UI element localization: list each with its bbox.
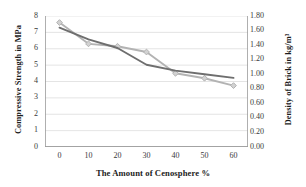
x-axis-tick-label: 50 (192, 151, 218, 160)
x-axis-tick-label: 10 (76, 151, 102, 160)
plot-area (45, 16, 248, 147)
series-layer (57, 20, 237, 89)
plot-svg (45, 16, 248, 147)
x-axis-tick-label: 30 (134, 151, 160, 160)
x-axis-tick-label: 60 (221, 151, 247, 160)
x-axis-tick-label: 0 (47, 151, 73, 160)
x-axis-tick-label: 20 (105, 151, 131, 160)
x-axis-tick-label: 40 (163, 151, 189, 160)
chart-container: Compressive Strength in MPa Density of B… (0, 0, 306, 187)
